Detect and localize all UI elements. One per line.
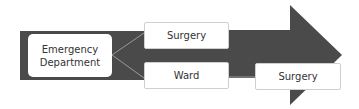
ward-node: Ward: [144, 62, 229, 89]
surgery-lower-label: Surgery: [278, 70, 317, 83]
emergency-department-label-line1: Emergency: [40, 43, 101, 56]
emergency-department-label-line2: Department: [40, 56, 101, 69]
surgery-lower-node: Surgery: [255, 63, 341, 90]
emergency-department-node: Emergency Department: [28, 34, 112, 77]
surgery-upper-label: Surgery: [167, 29, 206, 42]
surgery-upper-node: Surgery: [144, 22, 229, 49]
arrow-head: [290, 5, 342, 105]
gap-between-ward-and-surgery: [229, 79, 255, 90]
ward-label: Ward: [174, 69, 200, 82]
